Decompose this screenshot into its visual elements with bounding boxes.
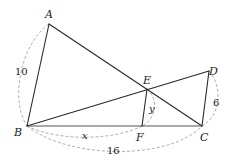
segment-ac bbox=[49, 24, 202, 126]
measure-bf: x bbox=[82, 130, 88, 141]
point-label-e: E bbox=[142, 74, 151, 87]
point-label-b: B bbox=[13, 126, 22, 139]
point-label-a: A bbox=[44, 8, 53, 21]
point-label-f: F bbox=[135, 131, 144, 144]
point-label-c: C bbox=[200, 131, 209, 144]
segment-bd bbox=[27, 71, 209, 126]
measure-bc: 16 bbox=[107, 145, 120, 156]
segment-dc bbox=[202, 71, 209, 126]
measure-ab: 10 bbox=[15, 66, 28, 77]
measure-ef: y bbox=[148, 103, 155, 114]
segment-ab bbox=[27, 24, 49, 126]
point-label-d: D bbox=[208, 65, 218, 78]
geometry-figure: A B C D E F 10 6 16 x y bbox=[0, 0, 231, 163]
measure-dc: 6 bbox=[213, 97, 219, 108]
segment-ef bbox=[142, 89, 147, 126]
